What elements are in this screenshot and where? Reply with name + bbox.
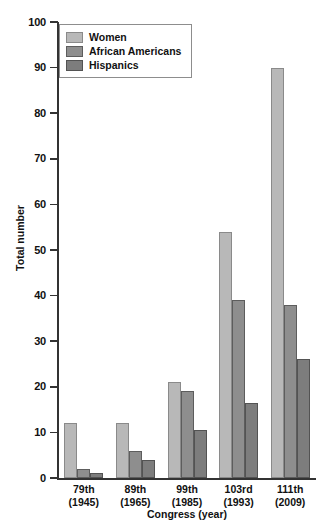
legend-item-label: Women <box>89 32 127 43</box>
category-congress: 103rd <box>225 483 253 495</box>
bar <box>64 423 77 478</box>
y-axis-tick <box>50 249 58 251</box>
bar <box>129 451 142 478</box>
y-axis-tick <box>50 340 58 342</box>
legend-item: Women <box>66 30 181 44</box>
bar <box>181 391 194 478</box>
y-axis-tick-label: 70 <box>6 153 46 164</box>
bar <box>297 359 310 478</box>
category-congress: 79th <box>73 483 95 495</box>
category-congress: 99th <box>176 483 198 495</box>
y-axis-tick <box>50 67 58 69</box>
bar <box>219 232 232 478</box>
category-congress: 111th <box>277 483 303 495</box>
y-axis-tick <box>50 477 58 479</box>
legend-swatch-icon <box>66 46 83 57</box>
y-axis-tick <box>50 158 58 160</box>
bar <box>284 305 297 478</box>
bar <box>90 473 103 478</box>
legend-swatch-icon <box>66 32 83 43</box>
x-axis-category-label: 111th(2009) <box>259 483 321 509</box>
bar-group <box>219 22 258 478</box>
y-axis-tick-label: 80 <box>6 108 46 119</box>
bar <box>142 460 155 478</box>
bar <box>232 300 245 478</box>
bar-group <box>271 22 310 478</box>
legend-item: African Americans <box>66 44 181 58</box>
y-axis-tick <box>50 21 58 23</box>
bar <box>116 423 129 478</box>
y-axis-tick-label: 20 <box>6 381 46 392</box>
y-axis-tick <box>50 386 58 388</box>
y-axis-tick-label: 40 <box>6 290 46 301</box>
bar <box>194 430 207 478</box>
y-axis-tick <box>50 295 58 297</box>
category-year: (2009) <box>259 496 321 509</box>
y-axis-title: Total number <box>14 178 26 298</box>
y-axis-tick <box>50 112 58 114</box>
y-axis-tick-label: 100 <box>6 17 46 28</box>
bar-chart: 1009080706050403020100 Total number Cong… <box>0 0 321 529</box>
y-axis-tick-label: 50 <box>6 245 46 256</box>
legend-swatch-icon <box>66 60 83 71</box>
bar-group <box>116 22 155 478</box>
y-axis-tick <box>50 204 58 206</box>
x-axis-title: Congress (year) <box>58 508 316 520</box>
bar <box>271 68 284 478</box>
bar <box>168 382 181 478</box>
legend-item: Hispanics <box>66 58 181 72</box>
category-congress: 89th <box>125 483 147 495</box>
y-axis-tick <box>50 432 58 434</box>
chart-legend: WomenAfrican AmericansHispanics <box>59 24 192 78</box>
bar <box>77 469 90 478</box>
plot-area <box>58 22 316 478</box>
legend-item-label: Hispanics <box>89 60 139 71</box>
y-axis-tick-label: 30 <box>6 336 46 347</box>
legend-item-label: African Americans <box>89 46 181 57</box>
y-axis-tick-label: 60 <box>6 199 46 210</box>
y-axis-tick-label: 0 <box>6 473 46 484</box>
y-axis-tick-label: 10 <box>6 427 46 438</box>
bar-group <box>64 22 103 478</box>
y-axis-tick-label: 90 <box>6 62 46 73</box>
bar <box>245 403 258 478</box>
bar-group <box>168 22 207 478</box>
